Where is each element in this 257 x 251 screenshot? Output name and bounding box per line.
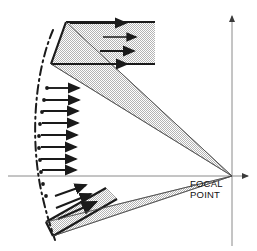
optics-diagram-root: FOCAL POINT — [0, 0, 257, 251]
optics-diagram-svg: FOCAL POINT — [0, 0, 257, 251]
focal-point-label-line2: POINT — [190, 189, 220, 200]
upper-incident-beam — [51, 22, 155, 64]
focal-point-label-line1: FOCAL — [190, 178, 223, 189]
middle-incident-ray-arrows — [41, 88, 79, 170]
beam-fills — [46, 22, 232, 236]
